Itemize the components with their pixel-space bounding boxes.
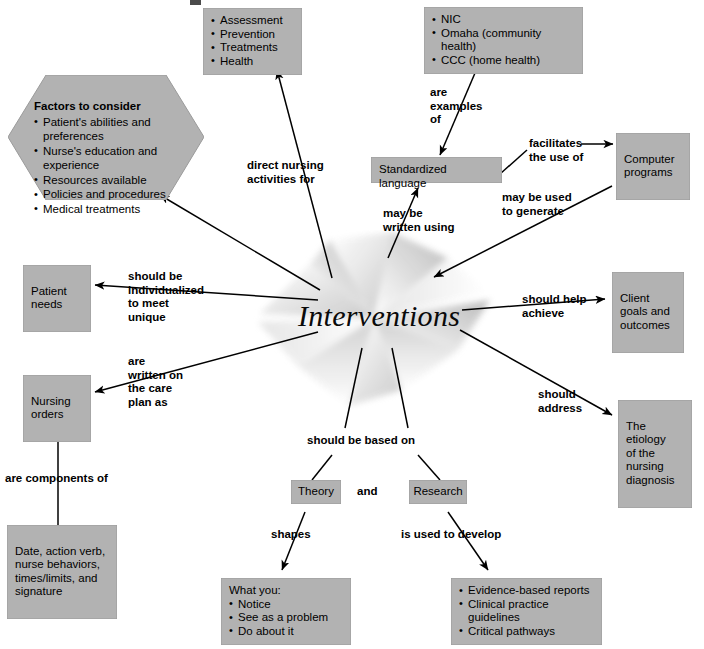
edge-label-direct-nursing: direct nursing activities for (247, 159, 324, 186)
edge-basis-to-theory (312, 455, 332, 480)
list-item: Omaha (community health) (432, 27, 575, 54)
standardized-language-node: Standardized language (371, 157, 502, 183)
what-you-node: What you: Notice See as a problem Do abo… (221, 578, 351, 645)
edge-label-is-used-to-develop: is used to develop (401, 528, 501, 542)
list-item: Policies and procedures (34, 187, 190, 202)
research-outputs-node: Evidence-based reports Clinical practice… (451, 578, 602, 645)
factors-content: Factors to consider Patient's abilities … (8, 75, 204, 226)
list-item: Health (211, 55, 294, 69)
list-item: Treatments (211, 41, 294, 55)
edge-label-may-be-written-using: may be written using (383, 207, 455, 234)
edge-label-are-components-of: are components of (5, 472, 108, 486)
edge-label-facilitates: facilitates the use of (529, 137, 583, 164)
language-examples-list: NIC Omaha (community health) CCC (home h… (432, 13, 575, 67)
theory-text: Theory (295, 485, 337, 499)
what-you-heading: What you: (229, 584, 343, 598)
nursing-orders-node: Nursing orders (23, 375, 91, 442)
list-item: Medical treatments (34, 202, 190, 217)
edge-label-and: and (357, 485, 377, 499)
list-item: Evidence-based reports (459, 584, 594, 598)
factors-heading: Factors to consider (34, 99, 190, 114)
research-text: Research (413, 485, 463, 499)
list-item: Do about it (229, 625, 343, 639)
etiology-text: The etiology of the nursing diagnosis (626, 420, 684, 488)
order-components-node: Date, action verb, nurse behaviors, time… (7, 525, 117, 619)
edge-label-should-be-based-on: should be based on (307, 434, 415, 448)
edge-center-to-basis-right (392, 348, 408, 428)
etiology-node: The etiology of the nursing diagnosis (618, 400, 692, 508)
nursing-orders-text: Nursing orders (31, 395, 83, 422)
patient-needs-text: Patient needs (31, 285, 83, 312)
list-item: Resources available (34, 173, 190, 188)
order-components-text: Date, action verb, nurse behaviors, time… (15, 545, 109, 599)
list-item: See as a problem (229, 611, 343, 625)
edge-label-individualized: should be individualized to meet unique (128, 270, 204, 324)
edge-label-are-examples-of: are examples of (430, 86, 482, 127)
edge-standardized-language-to-computer (500, 150, 527, 174)
concept-map-canvas: Assessment Prevention Treatments Health … (0, 0, 704, 649)
language-examples-node: NIC Omaha (community health) CCC (home h… (424, 7, 583, 74)
edge-basis-to-research (418, 455, 440, 480)
scan-artifact-mark (190, 0, 201, 5)
list-item: Clinical practice guidelines (459, 598, 594, 625)
standardized-language-text: Standardized language (379, 163, 494, 190)
list-item: Nurse's education and experience (34, 144, 190, 173)
research-node: Research (409, 480, 467, 504)
client-goals-node: Client goals and outcomes (612, 272, 684, 353)
research-outputs-list: Evidence-based reports Clinical practice… (459, 584, 594, 638)
list-item: Patient's abilities and preferences (34, 115, 190, 144)
patient-needs-node: Patient needs (23, 265, 91, 332)
factors-list: Patient's abilities and preferences Nurs… (34, 115, 190, 217)
edge-label-should-help-achieve: should help achieve (522, 293, 587, 320)
list-item: Prevention (211, 28, 294, 42)
list-item: NIC (432, 13, 575, 27)
list-item: Critical pathways (459, 625, 594, 639)
factors-to-consider-node: Factors to consider Patient's abilities … (8, 75, 204, 200)
page-title: Interventions (298, 300, 460, 332)
theory-node: Theory (291, 480, 341, 504)
list-item: CCC (home health) (432, 54, 575, 68)
list-item: Notice (229, 598, 343, 612)
computer-programs-node: Computer programs (616, 133, 690, 200)
edge-center-to-etiology (460, 330, 612, 415)
nursing-activities-list: Assessment Prevention Treatments Health (211, 14, 294, 68)
edge-label-may-be-used-to-generate: may be used to generate (502, 191, 572, 218)
computer-programs-text: Computer programs (624, 153, 682, 180)
nursing-activities-node: Assessment Prevention Treatments Health (203, 8, 302, 75)
edge-label-should-address: should address (538, 388, 582, 415)
what-you-list: Notice See as a problem Do about it (229, 598, 343, 639)
list-item: Assessment (211, 14, 294, 28)
edge-label-shapes: shapes (271, 528, 311, 542)
edge-center-to-basis (345, 348, 362, 428)
edge-label-written-on-care-plan: are written on the care plan as (128, 355, 183, 409)
client-goals-text: Client goals and outcomes (620, 292, 676, 333)
